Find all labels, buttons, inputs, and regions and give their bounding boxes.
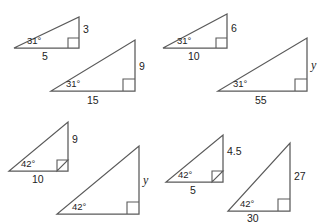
large-top-left-triangle: 31° 9 15 (51, 40, 145, 106)
pair-bottom-right: 42° 4.5 5 42° 27 30 (166, 135, 306, 222)
small-bottom-right-triangle: 42° 4.5 5 (166, 135, 242, 196)
large-bottom-right-angle-label: 42° (240, 198, 255, 209)
large-bottom-right-right-angle-icon (278, 199, 290, 211)
small-bottom-left-vertical-leg-label: 9 (72, 133, 78, 145)
large-bottom-left-right-angle-icon (127, 202, 139, 214)
small-bottom-left-base-label: 10 (32, 173, 44, 185)
small-bottom-right-base-label: 5 (190, 184, 196, 196)
large-top-left-vertical-leg-label: 9 (139, 60, 145, 72)
small-bottom-left-outline (9, 122, 68, 171)
small-bottom-left-triangle: 42° 9 10 (9, 122, 78, 185)
small-top-right-outline (163, 14, 227, 48)
small-bottom-right-outline (166, 135, 223, 182)
small-top-right-vertical-leg-label: 6 (231, 22, 237, 34)
small-bottom-left-right-angle-icon (57, 160, 68, 171)
large-top-right-angle-label: 31° (233, 78, 248, 89)
large-top-left-angle-label: 31° (66, 78, 81, 89)
triangles-canvas: 31° 3 5 31° 9 15 31° 6 10 (0, 0, 321, 222)
small-top-right-base-label: 10 (188, 50, 200, 62)
small-bottom-left-angle-label: 42° (21, 158, 36, 169)
large-top-right-base-label: 55 (255, 94, 267, 106)
small-top-left-right-angle-icon (68, 38, 79, 48)
large-bottom-left-angle-label: 42° (72, 201, 87, 212)
large-top-right-outline (218, 38, 307, 91)
large-top-right-triangle: 31° y 55 (218, 38, 317, 106)
small-bottom-right-angle-label: 42° (178, 169, 193, 180)
small-top-right-triangle: 31° 6 10 (163, 14, 237, 62)
small-top-right-right-angle-icon (216, 38, 227, 48)
pair-bottom-left: 42° 9 10 42° y (9, 122, 149, 214)
pair-top-right: 31° 6 10 31° y 55 (163, 14, 317, 106)
small-bottom-right-vertical-leg-label: 4.5 (227, 145, 242, 157)
large-top-left-base-label: 15 (87, 94, 99, 106)
similar-triangles-figure-sheet: 31° 3 5 31° 9 15 31° 6 10 (0, 0, 321, 222)
small-top-left-angle-label: 31° (27, 35, 42, 46)
small-top-left-triangle: 31° 3 5 (14, 17, 89, 62)
pair-top-left: 31° 3 5 31° 9 15 (14, 17, 145, 106)
large-bottom-right-base-label: 30 (247, 212, 259, 222)
large-top-left-right-angle-icon (123, 79, 135, 91)
large-bottom-right-vertical-leg-label: 27 (294, 170, 306, 182)
small-bottom-right-right-angle-icon (212, 171, 223, 182)
small-top-left-vertical-leg-label: 3 (83, 23, 89, 35)
large-top-right-right-angle-icon (295, 79, 307, 91)
large-bottom-left-triangle: 42° y (57, 146, 149, 214)
large-top-right-vertical-leg-label: y (310, 58, 317, 72)
small-top-left-base-label: 5 (42, 50, 48, 62)
small-top-left-outline (14, 17, 79, 48)
small-top-right-angle-label: 31° (177, 35, 192, 46)
large-bottom-left-vertical-leg-label: y (142, 173, 149, 187)
